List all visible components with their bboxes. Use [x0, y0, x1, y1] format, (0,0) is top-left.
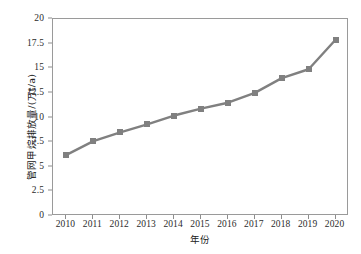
x-axis-tick-label: 2012 [110, 219, 129, 229]
x-axis-tick-label: 2014 [163, 219, 182, 229]
data-point-marker [63, 152, 69, 158]
x-axis-tick-mark [200, 215, 201, 219]
data-point-marker [252, 90, 258, 96]
data-point-marker [306, 66, 312, 72]
y-axis-tick-label: 5 [39, 161, 44, 171]
x-axis-tick-label: 2020 [325, 219, 344, 229]
plot-area [53, 19, 347, 214]
data-point-marker [279, 75, 285, 81]
data-point-marker [225, 100, 231, 106]
x-axis-tick-label: 2010 [56, 219, 75, 229]
x-axis-tick-label: 2017 [244, 219, 263, 229]
x-axis-tick-mark [146, 215, 147, 219]
data-point-marker [117, 129, 123, 135]
x-axis-tick-label: 2011 [83, 219, 102, 229]
x-axis-tick-label: 2015 [190, 219, 209, 229]
x-axis-title: 年份 [52, 232, 348, 246]
plot-frame [52, 18, 348, 215]
data-point-marker [171, 113, 177, 119]
x-axis-tick-mark [119, 215, 120, 219]
data-point-marker [333, 37, 339, 43]
y-axis-tick-label: 20 [34, 13, 44, 23]
data-point-marker [90, 138, 96, 144]
x-axis-tick-label: 2018 [271, 219, 290, 229]
line-series [53, 19, 349, 216]
x-axis-tick-label: 2013 [136, 219, 155, 229]
data-point-marker [198, 106, 204, 112]
y-axis-tick-label: 0 [39, 210, 44, 220]
x-axis-tick-mark [227, 215, 228, 219]
x-axis-tick-mark [92, 215, 93, 219]
x-axis-tick-mark [308, 215, 309, 219]
data-point-marker [144, 121, 150, 127]
chart-figure: 02.557.51012.51517.520 管网甲烷排放量/(万t/a) 20… [0, 0, 361, 254]
x-axis-tick-label: 2019 [298, 219, 317, 229]
x-axis-tick-mark [254, 215, 255, 219]
x-axis-tick-mark [65, 215, 66, 219]
x-axis-tick-mark [281, 215, 282, 219]
x-axis-tick-mark [335, 215, 336, 219]
x-axis-tick-label: 2016 [217, 219, 236, 229]
x-axis-tick-mark [173, 215, 174, 219]
y-axis-title: 管网甲烷排放量/(万t/a) [24, 47, 38, 207]
